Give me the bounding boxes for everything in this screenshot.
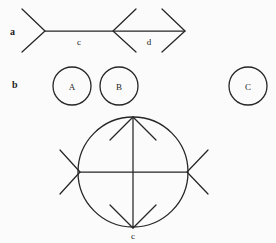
circle-node-c: C [229, 67, 267, 105]
right-outward-chevron-icon [187, 150, 208, 194]
panel-c: c [60, 117, 208, 241]
segment-label-d: d [147, 37, 152, 47]
circle-label-c: C [245, 82, 251, 92]
left-outward-chevron-icon [60, 150, 80, 194]
panel-label-a: a [10, 26, 15, 37]
left-chevron-arrowhead-icon [22, 9, 45, 52]
figure-root: a c d b A B C [0, 0, 276, 243]
main-circle-axis-label: c [131, 231, 135, 241]
circle-label-a: A [69, 82, 76, 92]
circle-node-b: B [100, 67, 138, 105]
panel-label-b: b [12, 79, 18, 90]
panel-a: a c d [10, 9, 185, 52]
circle-label-b: B [116, 82, 122, 92]
figure-canvas: a c d b A B C [0, 0, 276, 243]
circle-node-a: A [53, 67, 91, 105]
segment-label-c: c [77, 37, 81, 47]
panel-b: b A B C [12, 67, 267, 105]
